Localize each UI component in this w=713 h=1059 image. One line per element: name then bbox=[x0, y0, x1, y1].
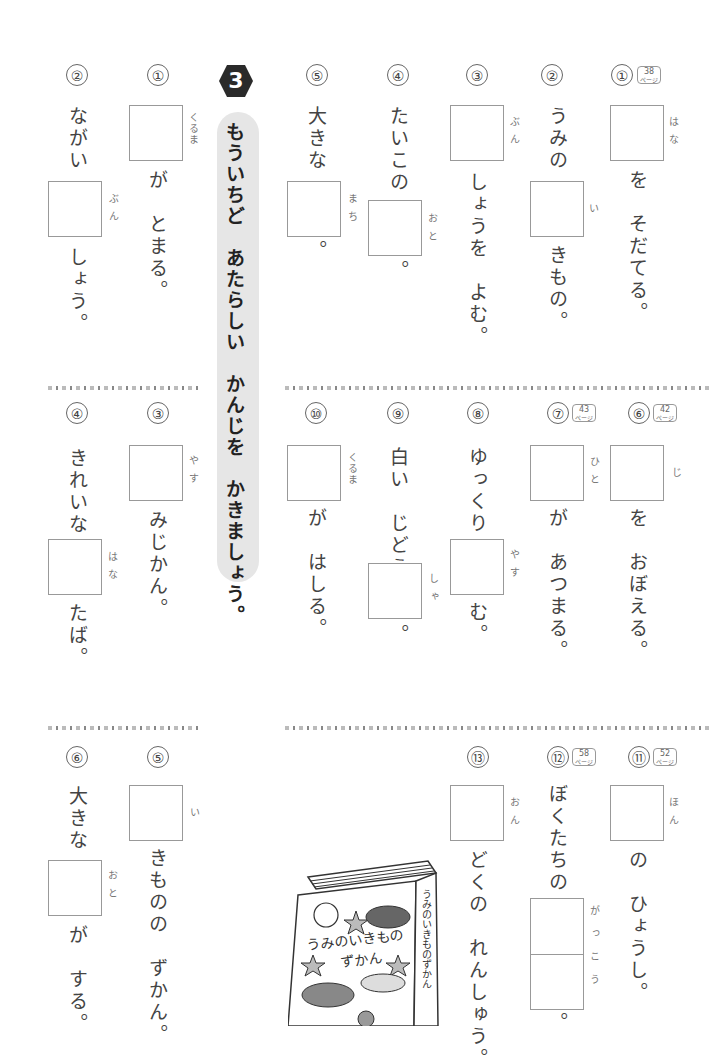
kanji-answer-box[interactable] bbox=[287, 181, 341, 237]
page-unit: ページ bbox=[638, 76, 660, 83]
sentence-text: 。 bbox=[388, 624, 407, 646]
kanji-answer-box[interactable] bbox=[450, 539, 504, 595]
kanji-answer-box[interactable] bbox=[368, 200, 422, 256]
ruby-reading: がっこう bbox=[588, 905, 598, 997]
sentence-text: ながい bbox=[67, 106, 86, 172]
sentence-text: 白い じどう bbox=[388, 447, 407, 579]
sentence-text: しょうを よむ。 bbox=[467, 172, 486, 348]
kanji-answer-box[interactable] bbox=[48, 860, 102, 916]
sentence-text: が あつまる。 bbox=[547, 508, 566, 662]
kanji-answer-box[interactable] bbox=[450, 105, 504, 161]
ruby-reading: ほん bbox=[667, 797, 677, 833]
ruby-reading: くるま bbox=[346, 452, 356, 485]
sentence-text: ぼくたちの bbox=[547, 784, 566, 894]
separator-right-1 bbox=[285, 386, 710, 390]
item-number: ⑥ bbox=[66, 746, 88, 768]
sentence-text: 。 bbox=[306, 240, 325, 262]
page-reference-badge: 38ページ bbox=[637, 66, 661, 84]
kanji-answer-box[interactable] bbox=[48, 181, 102, 237]
page-unit: ページ bbox=[654, 758, 676, 765]
item-number: ⑨ bbox=[387, 402, 409, 424]
separator-left-2 bbox=[48, 726, 198, 730]
item-number: ⑦ bbox=[547, 402, 569, 424]
ruby-reading: ぶん bbox=[508, 116, 518, 152]
sentence-text: を そだてる。 bbox=[627, 170, 646, 324]
ruby-reading: はな bbox=[667, 116, 677, 152]
kanji-answer-box[interactable] bbox=[530, 181, 584, 237]
kanji-answer-box[interactable] bbox=[450, 785, 504, 841]
page-number: 58 bbox=[579, 749, 589, 758]
sentence-text: 大きな bbox=[306, 106, 325, 172]
page-number: 42 bbox=[660, 405, 670, 414]
kanji-answer-box[interactable] bbox=[368, 563, 422, 619]
item-number: ③ bbox=[466, 64, 488, 86]
box-divider bbox=[531, 954, 583, 955]
page-number: 52 bbox=[660, 749, 670, 758]
ruby-reading: い bbox=[188, 807, 198, 825]
ruby-reading: おん bbox=[508, 797, 518, 833]
sentence-text: 大きな bbox=[67, 786, 86, 852]
item-number: ⑬ bbox=[467, 746, 489, 768]
ruby-reading: おと bbox=[106, 870, 116, 906]
ruby-reading: やす bbox=[508, 549, 518, 585]
sentence-text: が する。 bbox=[67, 925, 86, 1035]
item-number: ⑪ bbox=[628, 746, 650, 768]
sentence-text: が はしる。 bbox=[306, 508, 325, 640]
kanji-answer-box[interactable] bbox=[48, 539, 102, 595]
page-unit: ページ bbox=[654, 414, 676, 421]
kanji-answer-box[interactable] bbox=[129, 785, 183, 841]
sentence-text: たいこの bbox=[388, 106, 407, 194]
item-number: ① bbox=[147, 64, 169, 86]
item-number: ⑧ bbox=[467, 402, 489, 424]
kanji-answer-box[interactable] bbox=[610, 445, 664, 501]
ruby-reading: はな bbox=[106, 551, 116, 587]
sentence-text: の ひょうし。 bbox=[627, 850, 646, 1004]
ruby-reading: じ bbox=[670, 467, 680, 485]
ruby-reading: くるま bbox=[187, 112, 197, 145]
section-badge: 3 bbox=[218, 64, 254, 98]
sentence-text: うみの bbox=[547, 106, 566, 172]
sentence-text: が とまる。 bbox=[147, 170, 166, 302]
sentence-text: 。 bbox=[547, 1012, 566, 1034]
ruby-reading: い bbox=[587, 203, 597, 221]
page-reference-badge: 58ページ bbox=[572, 748, 596, 766]
item-number: ⑥ bbox=[628, 402, 650, 424]
sentence-text: を おぼえる。 bbox=[627, 508, 646, 662]
item-number: ② bbox=[541, 64, 563, 86]
page-number: 38 bbox=[644, 67, 654, 76]
page-reference-badge: 52ページ bbox=[653, 748, 677, 766]
kanji-answer-box[interactable] bbox=[287, 445, 341, 501]
sentence-text: ゆっくり bbox=[467, 447, 486, 535]
sentence-text: きもの。 bbox=[547, 245, 566, 333]
ruby-reading: ひと bbox=[588, 456, 598, 492]
item-number: ⑤ bbox=[147, 746, 169, 768]
kanji-answer-box[interactable] bbox=[610, 785, 664, 841]
page-reference-badge: 42ページ bbox=[653, 404, 677, 422]
ruby-reading: まち bbox=[346, 193, 356, 229]
item-number: ② bbox=[66, 64, 88, 86]
separator-right-2 bbox=[285, 726, 710, 730]
sentence-text: しょう。 bbox=[67, 247, 86, 335]
sentence-text: みじかん。 bbox=[147, 510, 166, 620]
ruby-reading: ぶん bbox=[107, 193, 117, 229]
page-title: もういちど あたらしい かんじを かきましょう。 bbox=[224, 122, 243, 626]
item-number: ⑩ bbox=[305, 402, 327, 424]
page-unit: ページ bbox=[573, 758, 595, 765]
kanji-answer-box[interactable] bbox=[129, 105, 183, 161]
kanji-answer-box-double[interactable] bbox=[530, 898, 584, 1010]
kanji-answer-box[interactable] bbox=[129, 445, 183, 501]
page-unit: ページ bbox=[573, 414, 595, 421]
separator-left-1 bbox=[48, 386, 198, 390]
kanji-answer-box[interactable] bbox=[610, 105, 664, 161]
item-number: ③ bbox=[147, 402, 169, 424]
sea-creatures-book-illustration: うみのいきもの ずかん うみのいきものずかん bbox=[288, 855, 448, 1026]
book-spine-text: うみのいきものずかん bbox=[418, 889, 433, 989]
kanji-answer-box[interactable] bbox=[530, 445, 584, 501]
sentence-text: きものの ずかん。 bbox=[147, 848, 166, 1046]
section-number: 3 bbox=[218, 68, 254, 94]
sentence-text: む。 bbox=[467, 602, 486, 646]
sentence-text: どくの れんしゅう。 bbox=[467, 850, 486, 1059]
ruby-reading: おと bbox=[426, 213, 436, 249]
item-number: ④ bbox=[387, 64, 409, 86]
sentence-text: きれいな bbox=[67, 448, 86, 536]
